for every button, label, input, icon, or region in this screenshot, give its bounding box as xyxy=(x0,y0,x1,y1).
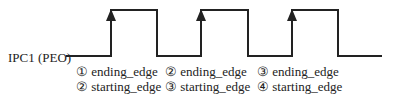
edge-label-1-starting: ② starting_edge xyxy=(76,80,161,93)
edge-label-1-ending: ① ending_edge xyxy=(76,65,158,78)
signal-label: IPC1 (PEO) xyxy=(8,51,71,64)
edge-label-3-starting: ④ starting_edge xyxy=(257,80,342,93)
edge-label-3-ending: ③ ending_edge xyxy=(257,65,339,78)
edge-label-2-ending: ② ending_edge xyxy=(165,65,247,78)
edge-label-2-starting: ③ starting_edge xyxy=(165,80,250,93)
